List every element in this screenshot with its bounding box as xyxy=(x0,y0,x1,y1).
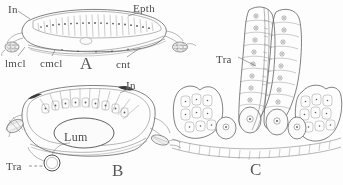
label-lum-b: Lum xyxy=(64,131,88,143)
plate-illustration xyxy=(0,0,343,185)
panel-b-right-appendage xyxy=(150,118,181,148)
panel-b-trachea xyxy=(28,143,70,171)
panel-letter-b: B xyxy=(112,162,123,179)
panel-a-right-attachment xyxy=(165,31,196,52)
label-cnt-a: cnt xyxy=(116,59,130,70)
panel-c-columns xyxy=(239,7,302,135)
label-tra-b: Tra xyxy=(6,161,22,172)
label-in-b: In xyxy=(126,80,136,91)
panel-letter-c: C xyxy=(250,161,261,178)
label-cmcl-a: cmcl xyxy=(40,58,63,69)
label-epth-a: Epth xyxy=(133,3,155,14)
panel-letter-a: A xyxy=(80,55,92,72)
panel-c-left-mass xyxy=(173,86,236,139)
panel-c-right-mass xyxy=(288,85,342,141)
label-tra-c: Tra xyxy=(216,54,232,65)
panel-c-drawing xyxy=(172,7,342,160)
panel-a-drawing xyxy=(2,9,196,57)
panel-a-left-attachment xyxy=(2,33,23,56)
panel-b-drawing xyxy=(4,85,181,171)
figure-plate: In Epth lmcl cmcl cnt In Lum Tra Tra A B… xyxy=(0,0,343,185)
label-lmcl-a: lmcl xyxy=(5,58,26,69)
label-in-a: In xyxy=(8,4,18,15)
